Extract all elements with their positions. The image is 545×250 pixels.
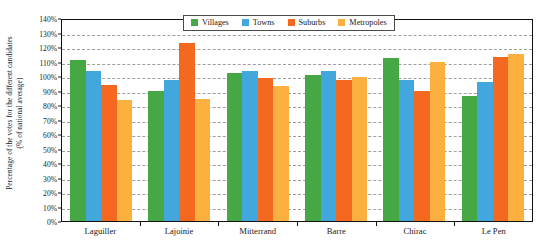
bar-group xyxy=(219,20,297,221)
legend-label: Suburbs xyxy=(299,18,326,27)
bar xyxy=(148,91,164,221)
y-tick-label: 120% xyxy=(39,44,57,53)
y-tick-label: 10% xyxy=(43,203,57,212)
x-tick-label: Le Pen xyxy=(454,226,533,246)
y-axis-tick-labels: 0%10%20%30%40%50%60%70%80%90%100%110%120… xyxy=(28,14,61,224)
legend-swatch-icon xyxy=(288,19,295,26)
plot-area xyxy=(61,19,533,222)
bar xyxy=(258,78,274,221)
legend-item[interactable]: Towns xyxy=(242,18,275,27)
y-tick-label: 100% xyxy=(39,73,57,82)
y-tick-label: 140% xyxy=(39,15,57,24)
bar-group xyxy=(454,20,532,221)
bar xyxy=(227,73,243,221)
bar xyxy=(336,80,352,221)
bar xyxy=(86,71,102,221)
y-axis-title: Percentage of the votes for the differen… xyxy=(0,0,30,226)
bar xyxy=(430,62,446,222)
y-axis-title-line-1: Percentage of the votes for the differen… xyxy=(5,36,15,190)
bar xyxy=(117,100,133,221)
bar xyxy=(462,96,478,221)
bar-chart-figure: Percentage of the votes for the differen… xyxy=(0,0,545,250)
bar xyxy=(414,91,430,221)
bar xyxy=(399,80,415,221)
bar xyxy=(383,58,399,221)
y-tick-label: 60% xyxy=(43,131,57,140)
bar xyxy=(493,57,509,221)
bar xyxy=(508,54,524,221)
y-tick-label: 40% xyxy=(43,160,57,169)
legend-item[interactable]: Villages xyxy=(191,18,229,27)
y-tick-label: 80% xyxy=(43,102,57,111)
legend-swatch-icon xyxy=(191,19,198,26)
x-tick-mark xyxy=(376,222,377,226)
bar-groups xyxy=(62,20,532,221)
bar xyxy=(273,86,289,221)
y-tick-label: 70% xyxy=(43,116,57,125)
bar xyxy=(352,77,368,221)
legend-label: Villages xyxy=(202,18,229,27)
y-tick-label: 90% xyxy=(43,87,57,96)
bar xyxy=(305,75,321,221)
bar xyxy=(321,71,337,221)
bar-group xyxy=(62,20,140,221)
x-axis-tick-labels: LaguillerLajoinieMitterrandBarreChiracLe… xyxy=(61,226,533,246)
x-tick-label: Laguiller xyxy=(61,226,140,246)
bar-group xyxy=(140,20,218,221)
bar xyxy=(242,71,258,221)
y-tick-label: 0% xyxy=(47,218,57,227)
y-tick-label: 110% xyxy=(40,58,57,67)
bar xyxy=(477,82,493,221)
bar-group xyxy=(297,20,375,221)
legend-label: Metropoles xyxy=(349,18,386,27)
chart-legend: VillagesTownsSuburbsMetropoles xyxy=(183,15,395,31)
x-tick-mark xyxy=(140,222,141,226)
y-tick-label: 30% xyxy=(43,174,57,183)
bar xyxy=(101,85,117,221)
bar xyxy=(195,99,211,221)
bar xyxy=(70,60,86,221)
legend-item[interactable]: Metropoles xyxy=(338,18,386,27)
x-tick-label: Lajoinie xyxy=(140,226,219,246)
bar xyxy=(164,80,180,221)
legend-item[interactable]: Suburbs xyxy=(288,18,326,27)
legend-label: Towns xyxy=(253,18,275,27)
x-tick-label: Mitterrand xyxy=(218,226,297,246)
legend-swatch-icon xyxy=(242,19,249,26)
x-tick-mark xyxy=(297,222,298,226)
y-tick-label: 130% xyxy=(39,29,57,38)
legend-swatch-icon xyxy=(338,19,345,26)
x-tick-mark xyxy=(454,222,455,226)
x-tick-mark xyxy=(218,222,219,226)
bar-group xyxy=(375,20,453,221)
x-tick-label: Chirac xyxy=(376,226,455,246)
bar xyxy=(179,43,195,221)
y-tick-label: 50% xyxy=(43,145,57,154)
x-tick-label: Barre xyxy=(297,226,376,246)
y-tick-label: 20% xyxy=(43,189,57,198)
y-axis-title-line-2: (% of national average) xyxy=(15,36,25,190)
